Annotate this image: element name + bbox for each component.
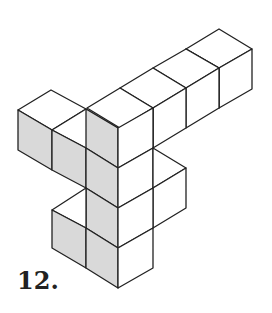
figure-label: 12.	[17, 266, 59, 295]
